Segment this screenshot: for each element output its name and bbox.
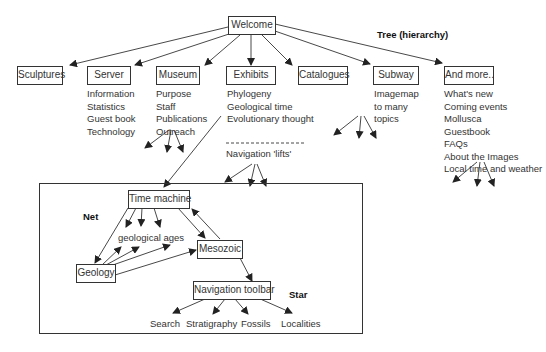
toolbar-item-localities[interactable]: Localities	[281, 318, 321, 329]
geology-node[interactable]: Geology	[76, 264, 116, 283]
exhibits-list: Phylogeny Geological time Evolutionary t…	[227, 88, 314, 126]
list-item[interactable]: Phylogeny	[227, 88, 314, 101]
catalogues-node[interactable]: Catalogues	[298, 66, 348, 85]
list-item[interactable]: Local time and weather	[444, 163, 542, 176]
list-item[interactable]: Imagemap	[374, 88, 419, 101]
server-list: Information Statistics Guest book Techno…	[87, 88, 136, 138]
toolbar-item-stratigraphy[interactable]: Stratigraphy	[186, 318, 237, 329]
time-machine-node[interactable]: Time machine	[128, 190, 190, 209]
sculptures-node[interactable]: Sculptures	[17, 66, 63, 85]
list-item[interactable]: to many	[374, 101, 419, 114]
and-more-list: What's new Coming events Mollusca Guestb…	[444, 88, 542, 176]
star-label: Star	[289, 289, 307, 300]
net-label: Net	[83, 211, 98, 222]
list-item[interactable]: Guest book	[87, 113, 136, 126]
list-item[interactable]: Coming events	[444, 101, 542, 114]
list-item[interactable]: topics	[374, 113, 419, 126]
toolbar-item-fossils[interactable]: Fossils	[241, 318, 271, 329]
server-node[interactable]: Server	[87, 66, 131, 85]
museum-list: Purpose Staff Publications Outreach	[156, 88, 207, 138]
list-item[interactable]: Guestbook	[444, 126, 542, 139]
toolbar-item-search[interactable]: Search	[150, 318, 180, 329]
list-item[interactable]: Mollusca	[444, 113, 542, 126]
list-item[interactable]: About the Images	[444, 151, 542, 164]
subway-list: Imagemap to many topics	[374, 88, 419, 126]
list-item[interactable]: Statistics	[87, 101, 136, 114]
list-item[interactable]: Outreach	[156, 126, 207, 139]
list-item[interactable]: Evolutionary thought	[227, 113, 314, 126]
tree-label: Tree (hierarchy)	[377, 29, 448, 40]
mesozoic-node[interactable]: Mesozoic	[197, 240, 243, 259]
list-item[interactable]: What's new	[444, 88, 542, 101]
list-item[interactable]: Information	[87, 88, 136, 101]
list-item[interactable]: Staff	[156, 101, 207, 114]
list-item[interactable]: Purpose	[156, 88, 207, 101]
list-item[interactable]: Publications	[156, 113, 207, 126]
list-item[interactable]: FAQs	[444, 138, 542, 151]
welcome-node[interactable]: Welcome	[228, 16, 276, 35]
geological-ages-label: geological ages	[118, 232, 184, 243]
list-item[interactable]: Geological time	[227, 101, 314, 114]
subway-node[interactable]: Subway	[373, 66, 419, 85]
navigation-toolbar-node[interactable]: Navigation toolbar	[193, 281, 271, 300]
nav-lifts-label: Navigation 'lifts'	[226, 148, 291, 159]
list-item[interactable]: Technology	[87, 126, 136, 139]
exhibits-node[interactable]: Exhibits	[226, 66, 276, 85]
and-more-node[interactable]: And more..	[444, 66, 494, 85]
museum-node[interactable]: Museum	[156, 66, 200, 85]
